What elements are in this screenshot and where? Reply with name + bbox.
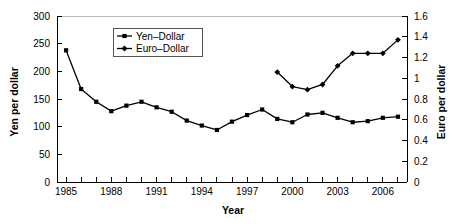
data-point: [336, 116, 340, 120]
x-axis-tick-labels: 19851988199119941997200020032006: [55, 186, 394, 197]
data-point: [305, 112, 309, 116]
data-point: [320, 111, 324, 115]
x-tick-label: 2006: [372, 186, 395, 197]
data-point: [351, 120, 355, 124]
data-point: [139, 100, 143, 104]
y-axis-right-ticks: [402, 16, 407, 182]
data-point: [396, 115, 400, 119]
data-point: [200, 123, 204, 127]
y2-tick-label: 0.4: [414, 135, 428, 146]
series-2: [274, 37, 400, 93]
x-tick-label: 1991: [145, 186, 168, 197]
y-tick-label: 250: [33, 38, 50, 49]
x-axis-ticks: [66, 177, 398, 182]
y-axis-right-title: Euro per dollar: [435, 65, 447, 140]
data-point: [170, 110, 174, 114]
y-tick-label: 0: [44, 177, 50, 188]
data-point: [109, 109, 113, 113]
data-point: [245, 113, 249, 117]
chart-legend: Yen–DollarEuro–Dollar: [113, 28, 202, 56]
y-tick-label: 300: [33, 11, 50, 22]
legend-label: Euro–Dollar: [136, 43, 189, 54]
y2-tick-label: 1.2: [414, 52, 428, 63]
y-tick-label: 100: [33, 121, 50, 132]
y2-tick-label: 0.2: [414, 156, 428, 167]
data-point: [230, 120, 234, 124]
y2-tick-label: 0: [414, 177, 420, 188]
y2-tick-label: 0.6: [414, 114, 428, 125]
data-point: [124, 104, 128, 108]
x-tick-label: 1997: [236, 186, 259, 197]
chart-container: 19851988199119941997200020032006 0501001…: [0, 0, 456, 224]
series-1: [64, 48, 400, 132]
series-line-1: [66, 50, 398, 130]
y-tick-label: 150: [33, 94, 50, 105]
y2-tick-label: 1: [414, 73, 420, 84]
x-tick-label: 1985: [55, 186, 78, 197]
exchange-rate-line-chart: 19851988199119941997200020032006 0501001…: [0, 0, 456, 224]
y-tick-label: 200: [33, 66, 50, 77]
data-point: [260, 107, 264, 111]
x-tick-label: 2000: [281, 186, 304, 197]
data-point: [185, 118, 189, 122]
data-point: [79, 87, 83, 91]
x-tick-label: 1988: [100, 186, 123, 197]
y-axis-left-tick-labels: 050100150200250300: [33, 11, 50, 188]
data-point: [154, 105, 158, 109]
data-point: [290, 120, 294, 124]
y2-tick-label: 1.6: [414, 11, 428, 22]
y2-tick-label: 1.4: [414, 31, 428, 42]
data-point: [381, 116, 385, 120]
x-tick-label: 1994: [191, 186, 214, 197]
data-point: [215, 128, 219, 132]
data-point: [365, 50, 371, 56]
y-axis-right-tick-labels: 00.20.40.60.811.21.41.6: [414, 11, 428, 188]
data-point: [275, 117, 279, 121]
y-tick-label: 50: [39, 149, 51, 160]
legend-label: Yen–Dollar: [136, 31, 185, 42]
y-axis-left-title: Yen per dollar: [8, 67, 20, 136]
data-point: [94, 100, 98, 104]
data-point: [64, 48, 68, 52]
y2-tick-label: 0.8: [414, 94, 428, 105]
data-point: [366, 119, 370, 123]
legend-marker-icon: [122, 34, 126, 38]
x-tick-label: 2003: [326, 186, 349, 197]
x-axis-title: Year: [222, 204, 244, 216]
y-axis-left-ticks: [57, 16, 62, 182]
data-point: [305, 87, 311, 93]
axis-lines: [57, 16, 407, 182]
